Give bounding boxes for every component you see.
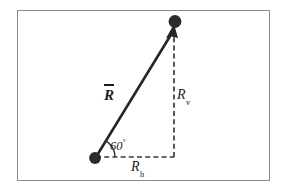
resultant-symbol: R (104, 88, 114, 103)
vertical-symbol: R (177, 87, 186, 102)
angle-value: 60 (110, 139, 123, 153)
tip-point-dot-icon (169, 15, 182, 28)
horizontal-component-label: Rh (131, 160, 144, 176)
angle-label: 60° (110, 139, 126, 153)
horizontal-subscript: h (140, 169, 144, 179)
degree-symbol: ° (123, 138, 126, 147)
horizontal-symbol: R (131, 159, 140, 174)
vertical-subscript: v (186, 97, 190, 107)
vector-diagram: R Rv Rh 60° (0, 0, 287, 192)
resultant-vector-label: R (104, 84, 114, 103)
vertical-component-label: Rv (177, 88, 190, 104)
vector-overline-icon (104, 84, 114, 86)
origin-point-dot-icon (89, 152, 101, 164)
